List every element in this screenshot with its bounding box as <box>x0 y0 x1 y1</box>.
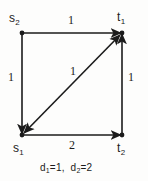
node-label-t1-subscript: 1 <box>121 17 125 26</box>
node-label-s1-subscript: 1 <box>19 148 23 157</box>
node-label-t2: t2 <box>117 142 125 154</box>
node-label-s2-subscript: 2 <box>15 18 19 27</box>
node-label-t2-subscript: 2 <box>121 148 125 157</box>
edge-weight-left: 1 <box>8 71 14 83</box>
edge-weight-top: 1 <box>68 14 74 26</box>
edge-weight-right: 1 <box>128 71 134 83</box>
node-label-t1: t1 <box>117 11 125 23</box>
node-dot-s2 <box>20 31 25 36</box>
node-label-s1: s1 <box>13 142 23 154</box>
node-label-s2: s2 <box>9 12 19 24</box>
node-dot-t2 <box>120 133 125 138</box>
node-dot-t1 <box>120 31 125 36</box>
edge-weight-diagonal: 1 <box>70 65 76 77</box>
figure-caption: d1=1, d2=2 <box>40 163 92 173</box>
graph-figure: s2 t1 s1 t2 1 1 2 1 1 d1=1, d2=2 <box>0 0 148 181</box>
edge-s1-t1-bidirectional <box>24 35 120 133</box>
node-dot-s1 <box>20 133 25 138</box>
edge-weight-bottom: 2 <box>69 139 75 151</box>
